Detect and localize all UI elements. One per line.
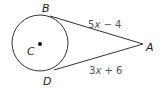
tangent-diagram: B C D A 5x − 4 3x + 6 — [0, 0, 165, 88]
label-c: C — [27, 45, 35, 58]
label-d: D — [43, 75, 51, 88]
center-point — [38, 42, 42, 46]
label-b: B — [42, 2, 50, 15]
expression-ba: 5x − 4 — [88, 19, 121, 30]
expression-da: 3x + 6 — [89, 65, 122, 76]
label-a: A — [145, 41, 154, 54]
